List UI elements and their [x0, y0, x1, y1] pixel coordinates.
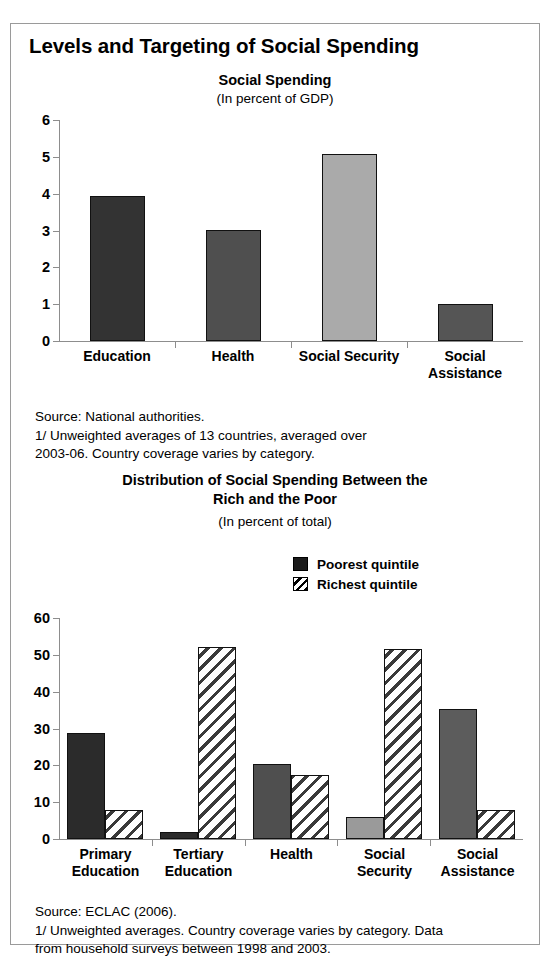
chart1-subtitle: (In percent of GDP) [11, 90, 539, 108]
chart2-category-label-2: Health [245, 846, 338, 863]
chart2-y-tick-label: 30 [34, 721, 50, 737]
chart1-y-tick-label: 4 [42, 186, 50, 202]
chart1-y-tick-label: 5 [42, 149, 50, 165]
chart2-bar [439, 709, 477, 839]
chart2-category-label-3: Social Security [338, 846, 431, 880]
chart1-y-tick-label: 0 [42, 333, 50, 349]
chart1-y-tick-label: 2 [42, 259, 50, 275]
chart1-bar [206, 230, 261, 341]
chart2-bar [67, 733, 105, 839]
chart1-source-note: Source: National authorities. 1/ Unweigh… [35, 408, 367, 464]
chart1-title: Social Spending [11, 71, 539, 90]
figure-page: Levels and Targeting of Social Spending … [0, 0, 556, 957]
chart1-y-tick-label: 3 [42, 223, 50, 239]
chart1-y-tick [53, 304, 59, 305]
chart2-y-tick [53, 618, 59, 619]
chart2-bar [160, 832, 198, 839]
chart2-legend: Poorest quintile Richest quintile [293, 555, 419, 595]
chart1-category-label-0: Education [59, 348, 175, 365]
chart2-bar [477, 810, 515, 839]
chart1-bar [322, 154, 377, 341]
chart2-y-tick [53, 692, 59, 693]
chart1-y-tick [53, 341, 59, 342]
chart2-y-tick [53, 802, 59, 803]
chart1-bar [438, 304, 493, 341]
chart2-bar [291, 775, 329, 839]
chart1-plot-area: 0123456 [59, 120, 523, 342]
chart2-y-tick-label: 50 [34, 647, 50, 663]
chart1-category-label-1: Health [175, 348, 291, 365]
chart1-y-tick [53, 120, 59, 121]
chart1-y-tick-label: 6 [42, 112, 50, 128]
legend-label-richest: Richest quintile [317, 577, 418, 592]
chart2-bar [105, 810, 143, 839]
chart2-y-tick [53, 655, 59, 656]
legend-item-richest: Richest quintile [293, 575, 419, 593]
chart2-category-label-1: Tertiary Education [152, 846, 245, 880]
chart2-y-tick-label: 60 [34, 610, 50, 626]
chart2-category-label-0: Primary Education [59, 846, 152, 880]
chart2-bar [198, 647, 236, 839]
chart1-category-label-2: Social Security [291, 348, 407, 365]
legend-item-poorest: Poorest quintile [293, 555, 419, 573]
chart2-y-tick-label: 0 [42, 831, 50, 847]
chart2-x-axis [59, 839, 523, 840]
chart1-y-tick [53, 267, 59, 268]
chart1-y-axis [59, 120, 60, 342]
chart2-y-tick [53, 729, 59, 730]
chart2-source-note: Source: ECLAC (2006). 1/ Unweighted aver… [35, 903, 443, 957]
chart1-y-tick [53, 157, 59, 158]
chart2-y-axis [59, 618, 60, 840]
chart2-subtitle: (In percent of total) [11, 513, 539, 531]
chart2-bar [253, 764, 291, 840]
page-title: Levels and Targeting of Social Spending [29, 34, 419, 58]
chart1-y-tick-label: 1 [42, 296, 50, 312]
chart2-bar [384, 649, 422, 839]
figure-frame: Levels and Targeting of Social Spending … [10, 23, 540, 945]
chart1-y-tick [53, 194, 59, 195]
chart2-y-tick [53, 839, 59, 840]
legend-swatch-hatched-icon [293, 577, 308, 591]
chart2-plot-area: 0102030405060 [59, 618, 523, 840]
legend-swatch-solid-icon [293, 557, 308, 571]
legend-label-poorest: Poorest quintile [317, 557, 419, 572]
chart2-bar [346, 817, 384, 839]
chart2-y-tick-label: 10 [34, 794, 50, 810]
chart1-y-tick [53, 231, 59, 232]
chart1-bar [90, 196, 145, 341]
chart2-title: Distribution of Social Spending Between … [11, 471, 539, 509]
chart2-y-tick-label: 40 [34, 684, 50, 700]
chart2-y-tick-label: 20 [34, 757, 50, 773]
chart2-category-label-4: Social Assistance [431, 846, 524, 880]
chart1-category-label-3: Social Assistance [407, 348, 523, 382]
chart2-y-tick [53, 765, 59, 766]
